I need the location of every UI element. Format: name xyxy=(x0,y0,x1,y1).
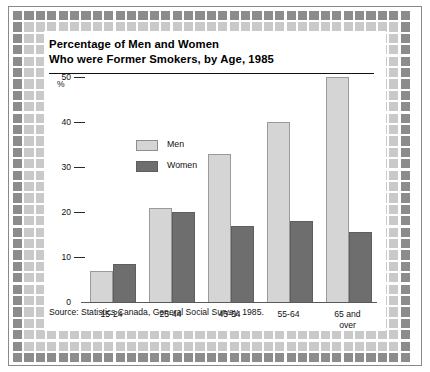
border-square xyxy=(36,353,45,362)
legend-swatch-men xyxy=(136,140,158,151)
border-square xyxy=(298,342,307,351)
bar-men xyxy=(267,122,290,302)
border-square xyxy=(24,273,33,282)
border-square xyxy=(264,342,273,351)
y-axis-tick-label: 40 xyxy=(49,117,71,127)
border-square xyxy=(401,148,410,157)
border-square xyxy=(81,330,90,339)
border-square xyxy=(389,171,398,180)
border-square xyxy=(184,353,193,362)
border-square xyxy=(93,11,102,20)
border-square xyxy=(24,34,33,43)
border-square xyxy=(389,262,398,271)
border-square xyxy=(24,11,33,20)
border-square xyxy=(401,228,410,237)
border-square xyxy=(13,57,22,66)
border-square xyxy=(252,342,261,351)
border-square xyxy=(401,250,410,259)
border-square xyxy=(70,342,79,351)
border-square xyxy=(230,330,239,339)
border-square xyxy=(332,342,341,351)
border-square xyxy=(389,307,398,316)
border-square xyxy=(13,239,22,248)
y-axis-tick-label: 20 xyxy=(49,207,71,217)
border-square xyxy=(116,342,125,351)
border-square xyxy=(13,262,22,271)
border-square xyxy=(401,91,410,100)
legend-label: Women xyxy=(167,160,197,170)
border-square xyxy=(13,159,22,168)
border-square xyxy=(344,353,353,362)
border-square xyxy=(287,11,296,20)
border-square xyxy=(309,11,318,20)
border-square xyxy=(389,11,398,20)
border-square xyxy=(13,114,22,123)
border-square xyxy=(241,342,250,351)
border-square xyxy=(36,342,45,351)
y-axis-tick-label: 0 xyxy=(49,297,71,307)
bar-women xyxy=(290,221,313,302)
border-square xyxy=(389,125,398,134)
border-square xyxy=(24,296,33,305)
border-square xyxy=(207,11,216,20)
border-square xyxy=(13,296,22,305)
border-square xyxy=(401,353,410,362)
border-square xyxy=(184,11,193,20)
border-square xyxy=(401,307,410,316)
border-square xyxy=(81,353,90,362)
border-square xyxy=(13,79,22,88)
border-square xyxy=(401,239,410,248)
border-square xyxy=(207,330,216,339)
border-square xyxy=(230,11,239,20)
border-square xyxy=(275,342,284,351)
border-square xyxy=(13,22,22,31)
border-square xyxy=(173,342,182,351)
y-axis-tick-label: 50 xyxy=(49,72,71,82)
x-axis-tick-label: 65 andover xyxy=(312,309,383,330)
bar-group xyxy=(141,77,200,302)
border-square xyxy=(127,330,136,339)
border-square xyxy=(24,228,33,237)
border-square xyxy=(389,182,398,191)
border-square xyxy=(93,353,102,362)
border-square xyxy=(401,79,410,88)
bar-men xyxy=(326,77,349,302)
border-square xyxy=(264,330,273,339)
border-square xyxy=(195,330,204,339)
border-square xyxy=(332,353,341,362)
legend-label: Men xyxy=(167,139,184,149)
border-square xyxy=(24,148,33,157)
border-square xyxy=(230,342,239,351)
bar-group xyxy=(259,77,318,302)
border-square xyxy=(218,11,227,20)
border-square xyxy=(309,342,318,351)
bar-group xyxy=(318,77,377,302)
border-square xyxy=(24,136,33,145)
border-square xyxy=(389,296,398,305)
border-square xyxy=(127,11,136,20)
bar-men xyxy=(208,154,231,303)
border-square xyxy=(13,205,22,214)
border-square xyxy=(13,182,22,191)
border-square xyxy=(104,330,113,339)
border-square xyxy=(389,45,398,54)
chart-title: Percentage of Men and Women Who were For… xyxy=(49,37,379,66)
border-square xyxy=(13,273,22,282)
border-square xyxy=(287,353,296,362)
border-square xyxy=(24,91,33,100)
border-square xyxy=(389,239,398,248)
border-square xyxy=(401,205,410,214)
border-square xyxy=(309,330,318,339)
border-square xyxy=(184,342,193,351)
border-square xyxy=(161,353,170,362)
border-square xyxy=(24,79,33,88)
border-square xyxy=(321,342,330,351)
border-square xyxy=(24,102,33,111)
border-square xyxy=(355,342,364,351)
border-square xyxy=(401,319,410,328)
border-square xyxy=(13,68,22,77)
chart-title-line-2: Who were Former Smokers, by Age, 1985 xyxy=(49,53,274,65)
border-square xyxy=(24,125,33,134)
border-square xyxy=(13,285,22,294)
border-square xyxy=(81,342,90,351)
